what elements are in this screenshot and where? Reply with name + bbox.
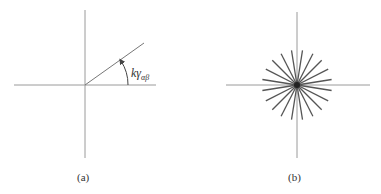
panel-a <box>14 10 156 158</box>
diagram-canvas <box>0 0 381 194</box>
panel-a-angle-arc-arrow <box>121 61 128 85</box>
panel-a-angle-label: kγαβ <box>131 66 149 82</box>
angle-label-subscript: αβ <box>141 73 149 82</box>
panel-b-center-dot <box>294 82 300 88</box>
panel-b-caption: (b) <box>288 171 301 183</box>
angle-label-main: kγ <box>131 66 141 80</box>
panel-a-caption: (a) <box>77 171 89 183</box>
panel-b <box>226 12 370 158</box>
